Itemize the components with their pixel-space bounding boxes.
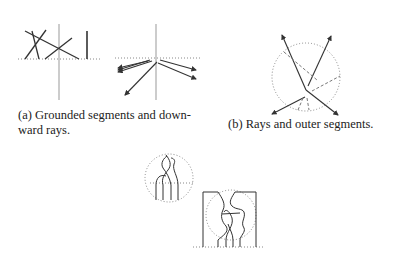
- subfigure-a-grounded-segments: [18, 24, 100, 100]
- caption-a-line2: ward rays.: [18, 123, 208, 138]
- subfigure-a-downward-rays: [115, 24, 200, 100]
- caption-b: (b) Rays and outer segments.: [228, 117, 398, 132]
- caption-a: (a) Grounded segments and down- ward ray…: [18, 108, 208, 138]
- subfigure-c-small-circle: [145, 154, 193, 202]
- subfigure-b-rays-outer-segments: [272, 35, 340, 115]
- caption-a-line1: (a) Grounded segments and down-: [18, 108, 208, 123]
- subfigure-c-box: [193, 190, 264, 247]
